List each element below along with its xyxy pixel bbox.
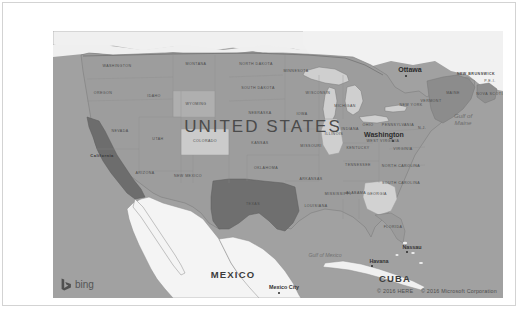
city-dot-mexico-city <box>278 292 280 294</box>
bing-logo-icon <box>61 278 72 291</box>
map-viewport[interactable]: UNITED STATES MEXICO CUBA Gulf ofMaine G… <box>53 31 503 298</box>
bing-map-screenshot: UNITED STATES MEXICO CUBA Gulf ofMaine G… <box>0 0 520 309</box>
city-dot-washington <box>392 140 394 142</box>
map-canvas[interactable]: UNITED STATES MEXICO CUBA Gulf ofMaine G… <box>53 31 503 298</box>
city-dot-ottawa <box>405 75 407 77</box>
bing-logo-text: bing <box>75 279 94 290</box>
attribution-microsoft: © 2016 Microsoft Corporation <box>421 288 497 294</box>
map-attribution: © 2016 HERE © 2016 Microsoft Corporation <box>371 288 497 294</box>
attribution-here: © 2016 HERE <box>377 288 413 294</box>
state-wyoming-highlight[interactable] <box>173 91 215 117</box>
map-card: UNITED STATES MEXICO CUBA Gulf ofMaine G… <box>13 11 509 303</box>
state-colorado-highlight[interactable] <box>181 129 229 155</box>
city-dot-nassau <box>406 251 408 253</box>
map-geometry <box>53 31 503 298</box>
bing-logo[interactable]: bing <box>61 278 94 291</box>
city-dot-havana <box>371 265 373 267</box>
screenshot-frame: UNITED STATES MEXICO CUBA Gulf ofMaine G… <box>2 2 516 306</box>
